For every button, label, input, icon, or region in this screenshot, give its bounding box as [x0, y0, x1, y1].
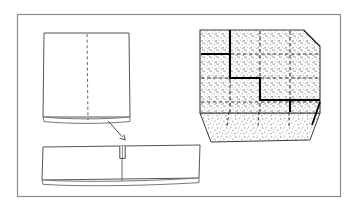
process-arrow	[108, 121, 123, 137]
folded-bar-figure	[42, 145, 200, 186]
block-front-face	[200, 113, 320, 142]
fold-direction-arrow-icon	[108, 121, 123, 137]
flat-sheet-figure	[43, 33, 130, 123]
figure-canvas: Sheet folding and grid block technical i…	[0, 0, 357, 209]
flat-sheet-thickness-edge	[43, 117, 130, 123]
grid-block-figure	[200, 30, 320, 142]
technical-illustration	[0, 0, 357, 209]
flat-sheet-face	[43, 33, 130, 117]
